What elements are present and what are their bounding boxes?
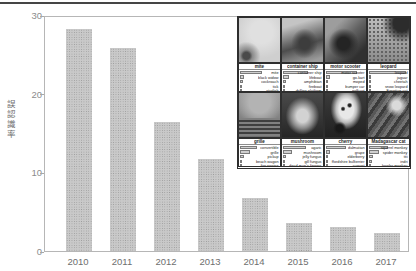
prediction-label: fire engine — [239, 163, 280, 167]
prediction-label: howler monkey — [368, 163, 409, 167]
x-tick-label-2010: 2010 — [56, 256, 100, 267]
bar-2014 — [242, 198, 268, 251]
y-axis-title: 誤認識率 — [4, 100, 16, 170]
y-tick-label-30: 30 — [16, 11, 42, 21]
x-tick-label-2012: 2012 — [144, 256, 188, 267]
prediction-row: currant — [325, 163, 366, 167]
predictions-panel-cherry: cherrydalmatiangrapeelderberryffordshire… — [324, 138, 367, 168]
predictions-panel-mite: mitemiteblack widowcockroachtickstarfish — [238, 63, 281, 93]
bar-2013 — [198, 159, 224, 251]
x-tick-label-2011: 2011 — [100, 256, 144, 267]
predictions-panel-leopard: leopardleopardjaguarcheetahsnow leopardE… — [367, 63, 410, 93]
bar-2011 — [110, 48, 136, 251]
x-tick-label-2017: 2017 — [364, 256, 408, 267]
x-tick-label-2013: 2013 — [188, 256, 232, 267]
predictions-panel-madagascar-cat: Madagascar catsquirrel monkeyspider monk… — [367, 138, 410, 168]
x-tick-label-2016: 2016 — [320, 256, 364, 267]
y-tick-label-0: 0 — [16, 247, 42, 257]
prediction-row: fire engine — [239, 163, 280, 167]
top-rule-divider — [0, 2, 416, 4]
image-classification-inset: mitemiteblack widowcockroachtickstarfish… — [237, 16, 411, 169]
figure-canvas: 誤認識率 0102030 201020112012201320142015201… — [0, 0, 416, 271]
bar-2017 — [374, 233, 400, 251]
mite-photo — [238, 17, 281, 63]
predictions-panel-motor-scooter: motor scootermotor scootergo-kartmopedbu… — [324, 63, 367, 93]
prediction-row: howler monkey — [368, 163, 409, 167]
predictions-panel-container-ship: container shipcontainer shiplifeboatamph… — [281, 63, 324, 93]
bar-2015 — [286, 223, 312, 251]
bar-2016 — [330, 227, 356, 251]
motor-scooter-photo — [324, 17, 367, 63]
mushroom-photo — [281, 92, 324, 138]
leopard-photo — [367, 17, 410, 63]
container-ship-photo — [281, 17, 324, 63]
madagascar-cat-photo — [367, 92, 410, 138]
bar-2010 — [66, 29, 92, 251]
cherry-dalmatian-photo — [324, 92, 367, 138]
x-tick-label-2015: 2015 — [276, 256, 320, 267]
prediction-label: dead-man's-fingers — [282, 163, 323, 167]
predictions-panel-grille: grilleconvertiblegrillepickupbeach wagon… — [238, 138, 281, 168]
y-tick-label-20: 20 — [16, 90, 42, 100]
bar-2012 — [154, 122, 180, 251]
prediction-label: currant — [325, 163, 366, 167]
prediction-row: dead-man's-fingers — [282, 163, 323, 167]
y-tick-label-10: 10 — [16, 168, 42, 178]
x-tick-label-2014: 2014 — [232, 256, 276, 267]
grille-photo — [238, 92, 281, 138]
predictions-panel-mushroom: mushroomagaricmushroomjelly fungusgill f… — [281, 138, 324, 168]
